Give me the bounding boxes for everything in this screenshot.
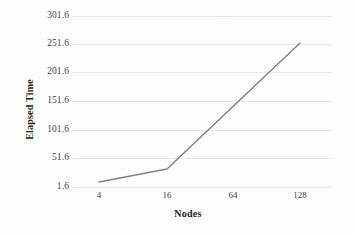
series-line-elapsed-time [99, 43, 300, 182]
series-line-chart [0, 0, 355, 235]
chart-screenshot: 301.6251.6201.6151.6101.651.61.6 Elapsed… [0, 0, 355, 235]
